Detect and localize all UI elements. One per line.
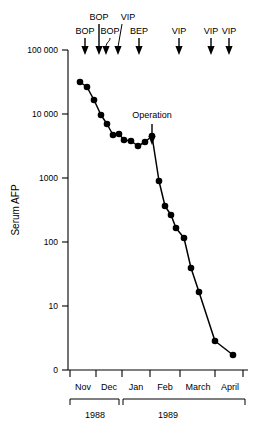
treatment-label-6: VIP [204,26,219,36]
afp-line-chart: 100 000 10 000 1000 100 10 0 Serum AFP N… [0,0,255,434]
year-label-1988: 1988 [85,410,105,420]
treatment-markers: BOP BOP BOP VIP BEP VIP VIP VIP [75,12,236,55]
data-point [149,133,156,140]
data-point [121,137,128,144]
data-point [98,112,105,119]
x-tick-label-april: April [221,382,239,392]
data-point [196,289,203,296]
y-tick-label-100: 100 [44,237,58,247]
y-tick-label-100000: 100 000 [27,45,58,55]
year-bracket-1989 [123,399,245,405]
data-point [128,138,135,145]
data-point [110,132,117,139]
series-serum-afp [77,79,237,359]
data-point [181,235,188,242]
treatment-arrow-7-head [225,46,232,55]
treatment-label-5: VIP [172,26,187,36]
data-point [84,84,91,91]
treatment-arrow-5-head [175,46,182,55]
y-tick-label-10000: 10 000 [32,109,58,119]
y-tick-label-0: 0 [53,365,58,375]
data-point [168,212,175,219]
treatment-arrow-3-head [114,46,121,55]
y-axis: 100 000 10 000 1000 100 10 0 Serum AFP [10,45,68,375]
year-brackets: 1988 1989 [70,399,245,420]
treatment-arrow-2-head [102,46,109,55]
operation-label: Operation [132,110,172,120]
treatment-arrow-4-head [135,46,142,55]
treatment-label-2: BOP [100,26,119,36]
chart-canvas: 100 000 10 000 1000 100 10 0 Serum AFP N… [0,0,255,434]
data-point [135,143,142,150]
data-point [116,131,123,138]
treatment-label-7: VIP [222,26,237,36]
treatment-label-1: BOP [89,12,108,22]
x-tick-label-march: March [185,382,210,392]
data-point [212,338,219,345]
treatment-arrow-0-head [81,46,88,55]
x-axis: Nov Dec Jan Feb March April [68,370,248,392]
treatment-label-3: VIP [121,12,136,22]
x-tick-label-feb: Feb [157,382,173,392]
data-point [173,225,180,232]
data-point [162,203,169,210]
y-tick-label-1000: 1000 [39,173,58,183]
year-bracket-1988 [70,399,119,405]
data-point [77,79,84,86]
treatment-arrow-1-head [95,46,102,55]
data-point [142,139,149,146]
treatment-label-0: BOP [75,26,94,36]
series-line [80,82,233,355]
y-axis-title: Serum AFP [10,184,21,235]
treatment-leader-2 [106,38,110,47]
x-tick-label-dec: Dec [101,382,118,392]
year-label-1989: 1989 [158,410,178,420]
data-point [156,178,163,185]
data-point [188,265,195,272]
treatment-label-4: BEP [130,26,148,36]
y-tick-label-10: 10 [49,301,59,311]
x-tick-label-jan: Jan [129,382,144,392]
data-point [104,121,111,128]
treatment-arrow-6-head [207,46,214,55]
data-point [91,97,98,104]
x-tick-label-nov: Nov [75,382,92,392]
data-point [230,352,237,359]
